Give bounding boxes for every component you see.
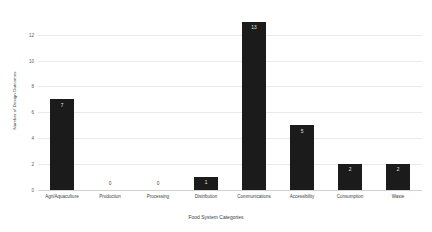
bar-slot[interactable]: 2 [338, 14, 362, 190]
x-category-label: Processing [134, 194, 182, 199]
bar[interactable] [242, 22, 266, 190]
bar-slot[interactable]: 0 [98, 14, 122, 190]
y-tick-label: 4 [31, 136, 34, 141]
bars: 700113522 [38, 14, 422, 190]
y-tick-label: 2 [31, 162, 34, 167]
x-axis-title: Food System Categories [0, 214, 432, 220]
y-axis-title: Number of Design Outcomes [8, 0, 22, 200]
bar-slot[interactable]: 7 [50, 14, 74, 190]
y-tick-label: 0 [31, 188, 34, 193]
gridline: 0 [38, 190, 422, 191]
y-tick-label: 6 [31, 110, 34, 115]
bar-slot[interactable]: 0 [146, 14, 170, 190]
bar-value-label: 13 [242, 26, 266, 31]
y-tick-label: 12 [29, 32, 34, 37]
y-tick-label: 8 [31, 84, 34, 89]
x-category-label: Distribution [182, 194, 230, 199]
bar-value-label: 2 [386, 168, 410, 173]
bar-slot[interactable]: 5 [290, 14, 314, 190]
bar-slot[interactable]: 13 [242, 14, 266, 190]
x-category-label: Production [86, 194, 134, 199]
bar-value-label: 0 [146, 182, 170, 187]
bar[interactable] [50, 99, 74, 190]
bar-value-label: 1 [194, 181, 218, 186]
y-axis-title-text: Number of Design Outcomes [13, 71, 18, 129]
x-category-label: Agri/Aquaculture [38, 194, 86, 199]
bar-slot[interactable]: 2 [386, 14, 410, 190]
bar[interactable] [290, 125, 314, 190]
bar-value-label: 0 [98, 182, 122, 187]
x-axis-title-text: Food System Categories [188, 214, 243, 220]
y-tick-label: 10 [29, 58, 34, 63]
bar-value-label: 5 [290, 130, 314, 135]
plot-area: 024681012 700113522 [38, 14, 422, 190]
bar-chart: Number of Design Outcomes 024681012 7001… [0, 0, 432, 232]
x-category-label: Waste [374, 194, 422, 199]
bar-value-label: 2 [338, 168, 362, 173]
x-category-label: Consumption [326, 194, 374, 199]
bar-value-label: 7 [50, 104, 74, 109]
x-category-label: Accessibility [278, 194, 326, 199]
bar-slot[interactable]: 1 [194, 14, 218, 190]
x-category-label: Communications [230, 194, 278, 199]
